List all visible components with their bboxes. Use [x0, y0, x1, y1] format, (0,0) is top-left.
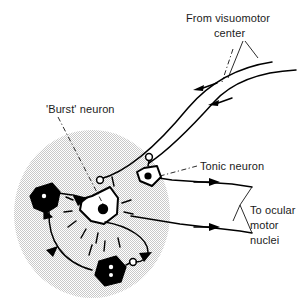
open-circle-bouton-icon	[97, 177, 104, 184]
tonic-neuron-nucleus	[144, 172, 151, 179]
arrow-left-icon	[208, 98, 232, 106]
input-source-label-line2: center	[214, 27, 245, 39]
arrow-right-icon	[194, 178, 220, 186]
tonic-neuron-label: Tonic neuron	[200, 160, 264, 172]
diagram-canvas: From visuomotor center 'Burst' neuron To…	[0, 0, 308, 306]
brace-stem	[233, 205, 240, 221]
input-source-label-line1: From visuomotor	[186, 12, 270, 24]
bottom-neuron-nucleus-upper	[109, 265, 113, 269]
arrow-right-icon	[194, 223, 220, 231]
neural-circuit-diagram: From visuomotor center 'Burst' neuron To…	[0, 0, 308, 306]
burst-neuron-label: 'Burst' neuron	[46, 103, 115, 115]
leader-line-tonic-neuron	[160, 166, 197, 176]
afferent-axon-upper	[149, 70, 296, 163]
leader-dash-afferent	[222, 49, 233, 82]
left-neuron-nucleus	[42, 194, 46, 198]
output-target-label-line1: To ocular	[250, 204, 296, 216]
leader-line-afferent-lower	[245, 41, 258, 58]
output-target-label-line3: nuclei	[250, 234, 279, 246]
open-circle-bouton-icon	[146, 154, 153, 161]
output-target-label-line2: motor	[250, 219, 279, 231]
bottom-neuron-nucleus-lower	[109, 273, 113, 277]
burst-neuron-nucleus	[98, 204, 108, 214]
arrow-left-icon	[193, 83, 217, 91]
tonic-neuron-terminal-stem	[148, 161, 149, 166]
